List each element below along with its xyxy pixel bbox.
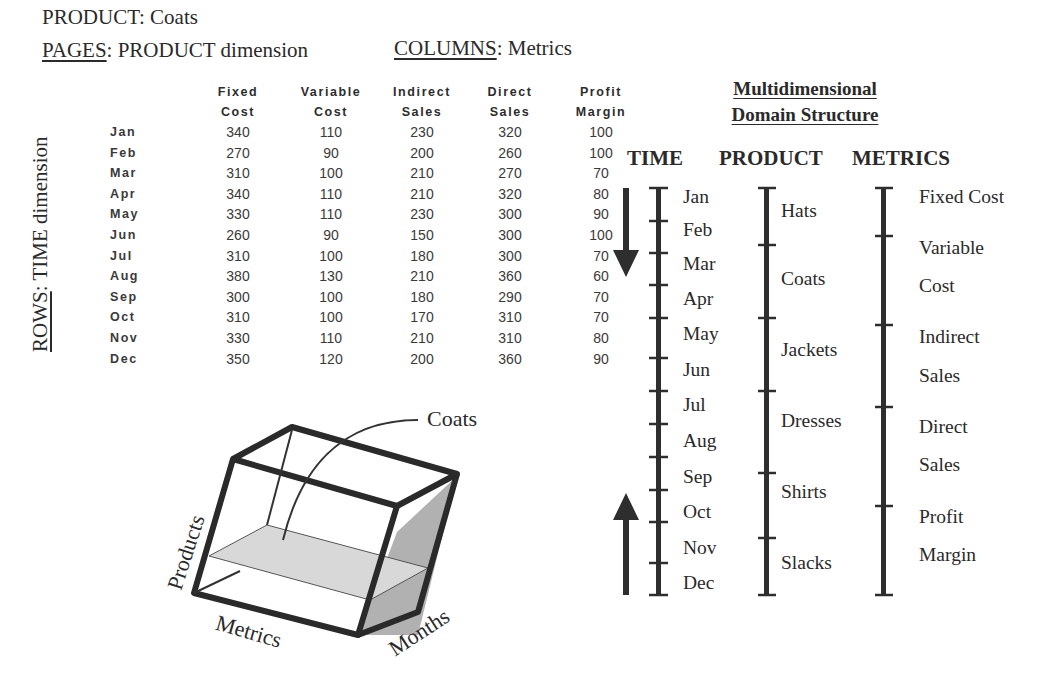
metrics-scale bbox=[875, 187, 893, 596]
metrics-dimension-header: METRICS bbox=[852, 146, 950, 171]
product-dimension-header: PRODUCT bbox=[719, 146, 823, 171]
metric-member: Direct bbox=[919, 416, 968, 438]
metric-member: Cost bbox=[919, 275, 955, 297]
time-member: Feb bbox=[683, 219, 712, 241]
time-down-arrow-shaft bbox=[623, 188, 629, 258]
product-member: Jackets bbox=[781, 339, 837, 361]
metric-member: Indirect bbox=[919, 326, 980, 348]
product-member: Shirts bbox=[781, 481, 827, 503]
time-up-arrow-shaft bbox=[623, 518, 629, 595]
coats-slice-label: Coats bbox=[427, 406, 477, 432]
arrow-up-icon bbox=[613, 493, 639, 520]
time-member: Apr bbox=[683, 288, 713, 310]
metric-member: Sales bbox=[919, 454, 960, 476]
time-member: Sep bbox=[683, 466, 712, 488]
time-member: Nov bbox=[683, 537, 717, 559]
product-scale bbox=[758, 187, 776, 596]
metric-member: Fixed Cost bbox=[919, 186, 1004, 208]
product-member: Slacks bbox=[781, 552, 832, 574]
time-member: Jan bbox=[683, 186, 709, 208]
product-member: Coats bbox=[781, 268, 825, 290]
time-member: Jul bbox=[683, 394, 706, 416]
product-member: Dresses bbox=[781, 410, 842, 432]
time-member: Oct bbox=[683, 501, 711, 523]
metric-member: Profit bbox=[919, 506, 963, 528]
time-member: Mar bbox=[683, 253, 716, 275]
time-dimension-header: TIME bbox=[627, 146, 683, 171]
time-member: Jun bbox=[683, 359, 710, 381]
time-member: Aug bbox=[683, 430, 717, 452]
structure-title-line1: Multidimensional bbox=[700, 76, 910, 102]
metric-member: Margin bbox=[919, 544, 976, 566]
time-scale bbox=[649, 187, 668, 596]
metric-member: Variable bbox=[919, 237, 984, 259]
product-member: Hats bbox=[781, 200, 817, 222]
time-member: Dec bbox=[683, 572, 714, 594]
arrow-down-icon bbox=[613, 250, 639, 277]
structure-title: Multidimensional Domain Structure bbox=[700, 76, 910, 128]
structure-title-line2: Domain Structure bbox=[700, 102, 910, 128]
time-member: May bbox=[683, 323, 719, 345]
metric-member: Sales bbox=[919, 365, 960, 387]
